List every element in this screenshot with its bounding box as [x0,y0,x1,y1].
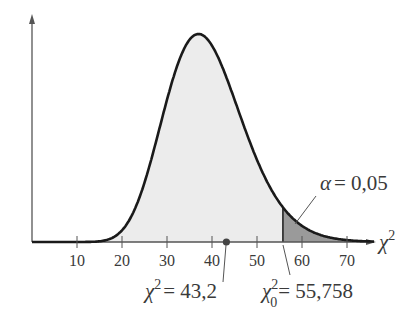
x-tick-label: 60 [294,252,310,269]
chi-square-chart: 10203040506070 χ2 α= 0,05 χ2= 43,2 χ20= … [0,0,415,316]
x-axis-label: χ2 [377,228,395,254]
areas-layer [32,34,374,242]
alpha-label: α= 0,05 [320,171,388,195]
x-tick-label: 40 [204,252,220,269]
test-statistic-point [223,238,230,245]
x-tick-label: 30 [159,252,175,269]
x-tick-label: 50 [249,252,265,269]
test-statistic-label: χ2= 43,2 [143,277,217,303]
x-tick-label: 10 [69,252,85,269]
y-axis-arrow [29,14,35,24]
x-tick-label: 70 [339,252,355,269]
critical-value-label: χ20= 55,758 [260,277,353,310]
critical-value-leader-line [283,245,290,275]
test-statistic-leader-line [223,245,226,282]
x-tick-label: 20 [114,252,130,269]
alpha-leader-line [295,196,316,224]
